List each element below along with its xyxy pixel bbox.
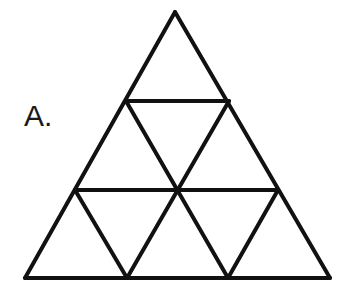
figure-panel: A. bbox=[0, 0, 345, 302]
diagram-background bbox=[0, 0, 345, 302]
figure-label: A. bbox=[24, 100, 52, 132]
triangle-diagram bbox=[0, 0, 345, 302]
